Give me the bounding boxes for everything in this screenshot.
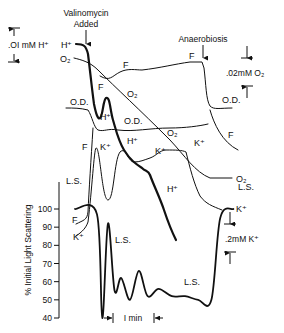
valinomycin-label-line2: Added	[74, 19, 99, 29]
y-tick-label: 40	[43, 313, 53, 323]
valinomycin-label-line1: Valinomycin	[63, 8, 108, 18]
label-ls-right: L.S.	[238, 182, 254, 192]
scale-h-label: .OI mM H⁺	[8, 40, 49, 50]
label-o2-right-mid: O₂	[167, 128, 178, 138]
label-od-right: O.D.	[222, 95, 241, 105]
label-od-mid: O.D.	[124, 116, 143, 126]
figure: Valinomycin Added Anaerobiosis .OI mM H⁺…	[0, 0, 284, 333]
y-tick-label: 100	[38, 204, 52, 214]
label-o2-start: O₂	[60, 54, 71, 64]
label-k-mid: K⁺	[100, 142, 111, 152]
y-tick-label: 50	[43, 295, 53, 305]
y-ticks: 100908070605040	[38, 204, 59, 323]
y-tick-label: 90	[43, 222, 53, 232]
trace-f-right	[210, 110, 238, 150]
trace-h	[76, 44, 176, 240]
label-k-end: K⁺	[236, 204, 247, 214]
y-tick-label: 80	[43, 240, 53, 250]
label-o2-mid: O₂	[127, 89, 138, 99]
time-scale-label: I min	[124, 313, 143, 323]
y-axis-label: % Initial Light Scattering	[23, 204, 33, 295]
label-h-bottom: H⁺	[167, 184, 179, 194]
y-tick-label: 70	[43, 259, 53, 269]
label-ls-mid: L.S.	[115, 235, 131, 245]
label-h-mid: H⁺	[100, 112, 112, 122]
label-f-right: F	[228, 130, 234, 140]
label-f-left: F	[82, 142, 88, 152]
label-f-anaerobiosis: F	[189, 51, 195, 61]
label-ls-bottom: L.S.	[184, 277, 200, 287]
y-tick-label: 60	[43, 277, 53, 287]
trace-f-upper	[100, 62, 232, 109]
trace-ls	[75, 205, 233, 318]
label-od-left: O.D.	[70, 97, 89, 107]
scale-o2-label: .02mM O₂	[226, 68, 264, 78]
label-k-lower-left: K⁺	[73, 232, 84, 242]
label-h-lower: H⁺	[127, 136, 139, 146]
label-f-top: F	[123, 60, 129, 70]
label-ls-left: L.S.	[66, 176, 82, 186]
label-f-lower-left: F	[72, 215, 78, 225]
anaerobiosis-label: Anaerobiosis	[178, 34, 227, 44]
scale-k-label: .2mM K⁺	[225, 234, 259, 244]
label-k-right-1: K⁺	[155, 146, 166, 156]
label-h-start: H⁺	[61, 40, 73, 50]
label-k-right-2: K⁺	[194, 138, 205, 148]
label-f-mid: F	[98, 82, 104, 92]
